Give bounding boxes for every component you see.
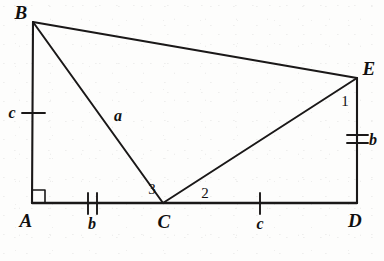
geometry-figure: B E A C D c a b c b 1 2 3	[0, 0, 384, 261]
side-label-b-right: b	[369, 132, 377, 148]
side-label-b-bottom: b	[88, 216, 96, 232]
segment-BE	[33, 22, 357, 78]
segment-CE	[163, 78, 357, 203]
right-angle-mark-A	[32, 190, 45, 203]
angle-label-3: 3	[148, 182, 156, 197]
side-label-a: a	[114, 108, 122, 124]
point-label-C: C	[158, 212, 171, 231]
angle-label-2: 2	[201, 186, 209, 201]
angle-label-1: 1	[341, 94, 349, 109]
side-label-c-bottom: c	[256, 216, 263, 232]
point-label-D: D	[348, 211, 362, 230]
point-label-A: A	[20, 211, 33, 230]
side-label-c-left: c	[8, 105, 15, 121]
point-label-B: B	[15, 3, 28, 22]
geometry-canvas	[0, 0, 384, 261]
point-label-E: E	[363, 59, 376, 78]
segment-BC	[33, 22, 163, 203]
